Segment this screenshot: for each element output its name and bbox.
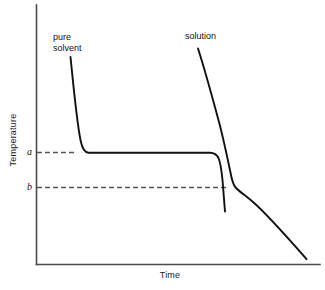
cooling-curve-figure: Temperature Time pure solvent solution a… [0,0,325,290]
y-axis-title: Temperature [8,100,18,180]
plot-area [0,0,325,290]
pure-solvent-cooling-curve [71,57,226,212]
y-tick-label-a: a [20,146,32,157]
x-axis-title: Time [140,270,200,280]
solution-label: solution [185,31,216,42]
pure-solvent-label: pure solvent [53,32,82,54]
y-tick-label-b: b [20,181,32,192]
